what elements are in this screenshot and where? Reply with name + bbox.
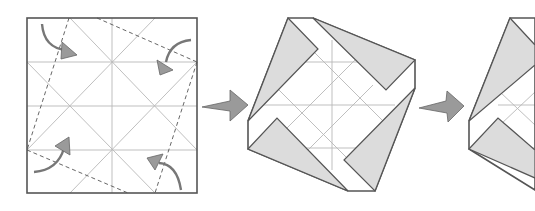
step-3-partial-shape bbox=[469, 18, 535, 190]
transition-arrow-1 bbox=[202, 90, 248, 121]
step-1-square bbox=[27, 18, 197, 193]
flap-bottom-left bbox=[248, 118, 348, 191]
bottom-right-curved-arrow bbox=[147, 154, 181, 190]
transition-arrow-2 bbox=[419, 91, 464, 122]
bottom-left-curved-arrow bbox=[34, 137, 70, 172]
top-right-curved-arrow bbox=[157, 40, 191, 75]
shape-outline bbox=[248, 18, 415, 191]
top-left-curved-arrow bbox=[42, 24, 77, 59]
flap-top-left bbox=[248, 18, 318, 121]
step-2-folded-shape bbox=[248, 18, 415, 191]
flap-top-left-partial bbox=[469, 18, 535, 121]
flap-top-right bbox=[313, 18, 415, 90]
origami-diagram bbox=[0, 0, 535, 211]
